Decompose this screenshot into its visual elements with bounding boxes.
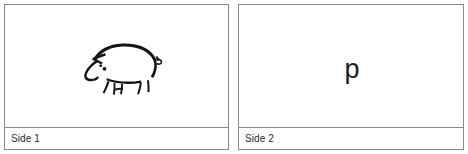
pig-drawing-icon	[71, 37, 167, 97]
side-label-2: Side 2	[245, 133, 274, 144]
flashcard-side-2-body: p	[239, 5, 463, 128]
flashcard-pair: Side 1 p Side 2	[0, 0, 468, 154]
side-label-1: Side 1	[11, 133, 40, 144]
flashcard-side-1[interactable]: Side 1	[4, 4, 229, 150]
pig-illustration	[71, 37, 167, 97]
flashcard-side-1-body	[5, 5, 228, 128]
flashcard-side-2[interactable]: p Side 2	[238, 4, 464, 150]
flashcard-side-1-footer: Side 1	[5, 128, 228, 149]
flashcard-side-2-footer: Side 2	[239, 128, 463, 149]
letter-answer: p	[344, 56, 359, 83]
